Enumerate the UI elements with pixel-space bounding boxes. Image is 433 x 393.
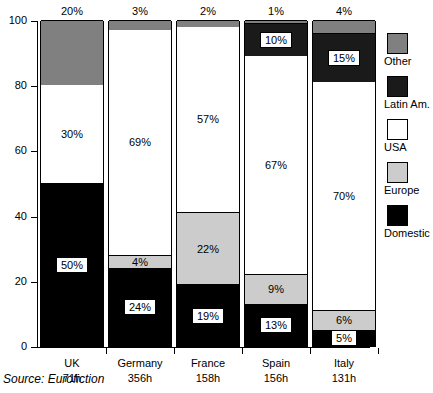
bar-segment-other [313,20,375,33]
bars-layer: 50%30%24%4%69%19%22%57%13%9%67%10%5%6%70… [0,21,370,347]
segment-value-label: 30% [61,128,83,140]
bar-germany[interactable]: 24%4%69% [108,21,172,347]
segment-value-label: 57% [197,113,219,125]
bar-italy[interactable]: 5%6%70%15% [312,21,376,347]
segment-value-label: 22% [197,243,219,255]
legend-item-usa[interactable]: USA [384,119,433,154]
bar-uk[interactable]: 50%30% [40,21,104,347]
category-name: Germany [102,356,178,371]
legend-swatch-icon [387,33,408,54]
legend-label: Other [384,55,433,68]
category-name: France [170,356,246,371]
bar-segment-usa: 57% [177,27,239,213]
x-axis-tick [174,348,175,354]
bar-segment-domestic: 5% [313,330,375,346]
top-annotation-row: 20%3%2%1%4% [0,4,370,18]
top-annotation-label: 1% [244,4,308,18]
x-axis-tick [106,348,107,354]
legend-swatch-icon [387,162,408,183]
bar-france[interactable]: 19%22%57% [176,21,240,347]
category-name: Italy [306,356,382,371]
legend: OtherLatin Am.USAEuropeDomestic [384,33,433,248]
category-hours: 356h [102,371,178,386]
top-annotation-label: 3% [108,4,172,18]
category-hours: 158h [170,371,246,386]
top-annotation-label: 4% [312,4,376,18]
bar-segment-other [245,20,307,23]
chart-root: 20%3%2%1%4% 020406080100 50%30%24%4%69%1… [0,0,433,393]
source-note: Source: Eurofiction [3,372,104,386]
segment-value-label: 13% [260,317,292,333]
bar-segment-usa: 67% [245,56,307,274]
bar-segment-domestic: 19% [177,284,239,346]
segment-value-label: 24% [124,299,156,315]
segment-value-label: 15% [328,50,360,66]
segment-value-label: 9% [268,283,284,295]
category-hours: 156h [238,371,314,386]
bar-segment-europe: 4% [109,255,171,268]
category-label-france: France158h [170,356,246,386]
legend-item-europe[interactable]: Europe [384,162,433,197]
bar-segment-other [177,20,239,27]
segment-value-label: 4% [132,256,148,268]
segment-value-label: 19% [192,308,224,324]
x-axis-tick [310,348,311,354]
top-annotation-label: 20% [40,4,104,18]
bar-segment-latin-am: 10% [245,23,307,56]
bar-spain[interactable]: 13%9%67%10% [244,21,308,347]
plot-area: 20%3%2%1%4% 020406080100 50%30%24%4%69%1… [0,0,370,360]
bar-segment-usa: 69% [109,30,171,255]
bar-segment-domestic: 13% [245,304,307,346]
bar-segment-usa: 30% [41,85,103,183]
legend-label: Domestic [384,227,433,240]
bar-segment-domestic: 24% [109,268,171,346]
segment-value-label: 70% [333,190,355,202]
segment-value-label: 5% [331,330,357,346]
category-hours: 131h [306,371,382,386]
bar-segment-europe: 22% [177,212,239,284]
x-axis-line [37,347,370,348]
top-annotation-label: 2% [176,4,240,18]
legend-label: USA [384,141,433,154]
legend-label: Latin Am. [384,98,433,111]
category-label-italy: Italy131h [306,356,382,386]
legend-item-other[interactable]: Other [384,33,433,68]
x-axis-tick [378,348,379,354]
segment-value-label: 50% [56,257,88,273]
bar-segment-europe: 6% [313,310,375,330]
legend-item-domestic[interactable]: Domestic [384,205,433,240]
category-label-germany: Germany356h [102,356,178,386]
legend-label: Europe [384,184,433,197]
x-axis-tick [242,348,243,354]
bar-segment-other [41,20,103,85]
segment-value-label: 67% [265,159,287,171]
legend-swatch-icon [387,76,408,97]
bar-segment-europe: 9% [245,274,307,303]
bar-segment-domestic: 50% [41,183,103,346]
segment-value-label: 10% [260,32,292,48]
legend-item-latin-am[interactable]: Latin Am. [384,76,433,111]
legend-swatch-icon [387,205,408,226]
bar-segment-usa: 70% [313,82,375,310]
legend-swatch-icon [387,119,408,140]
bar-segment-other [109,20,171,30]
segment-value-label: 6% [336,314,352,326]
category-label-spain: Spain156h [238,356,314,386]
category-name: UK [34,356,110,371]
segment-value-label: 69% [129,136,151,148]
bar-segment-latin-am: 15% [313,33,375,82]
category-name: Spain [238,356,314,371]
